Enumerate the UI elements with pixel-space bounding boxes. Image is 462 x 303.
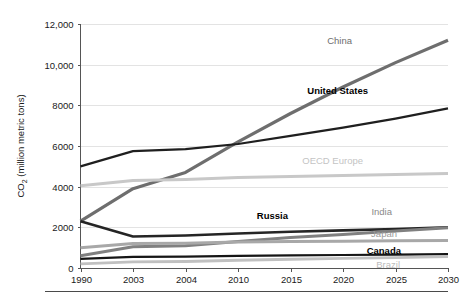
series-label-china: China (327, 35, 353, 46)
y-tick-label-8000: 8000 (52, 100, 73, 111)
chart-canvas: 0200040006000800010,00012,000 1990200320… (0, 0, 462, 303)
co2-emissions-line-chart: 0200040006000800010,00012,000 1990200320… (0, 0, 462, 303)
y-tick-label-4000: 4000 (52, 182, 73, 193)
y-axis-title-main: CO (15, 183, 26, 197)
x-tick-label-2025: 2025 (386, 274, 407, 285)
x-tick-label-2030: 2030 (438, 274, 459, 285)
x-tick-label-2010: 2010 (228, 274, 249, 285)
x-tick-label-2015: 2015 (281, 274, 302, 285)
x-tick-label-2004: 2004 (176, 274, 197, 285)
x-tick-label-2020: 2020 (333, 274, 354, 285)
y-tick-label-0: 0 (68, 263, 73, 274)
y-tick-label-2000: 2000 (52, 222, 73, 233)
x-tick-label-1990: 1990 (71, 274, 92, 285)
series-label-russia: Russia (257, 210, 289, 221)
y-tick-label-12000: 12,000 (44, 19, 73, 30)
y-tick-label-10000: 10,000 (44, 60, 73, 71)
series-label-japan: Japan (371, 228, 397, 239)
series-label-canada: Canada (367, 245, 402, 256)
series-label-india: India (371, 206, 392, 217)
series-label-oecd-europe: OECD Europe (302, 155, 363, 166)
x-tick-label-2003: 2003 (123, 274, 144, 285)
y-axis-title-rest: (million metric tons) (15, 94, 26, 179)
y-tick-label-6000: 6000 (52, 141, 73, 152)
series-label-brazil: Brazil (376, 259, 400, 270)
series-label-united-states: United States (307, 85, 368, 96)
